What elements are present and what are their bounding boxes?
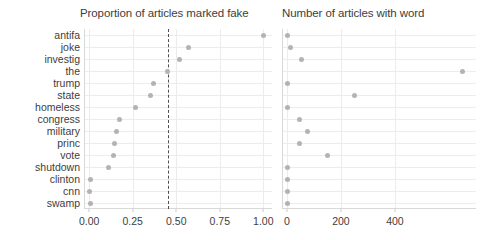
x-tick-label-0.00: 0.00 <box>79 216 99 227</box>
panel-count-title: Number of articles with word <box>282 7 424 19</box>
data-point-the <box>165 69 170 74</box>
data-point-trump <box>285 81 290 86</box>
gridline-row-joke <box>84 47 272 48</box>
gridline-row-the <box>282 71 476 72</box>
gridline-row-shutdown <box>282 167 476 168</box>
y-axis-spine <box>282 29 283 209</box>
gridline-row-swamp <box>282 203 476 204</box>
gridline-row-state <box>282 95 476 96</box>
data-point-swamp <box>88 201 93 206</box>
gridline-row-congress <box>282 119 476 120</box>
data-point-clinton <box>88 177 93 182</box>
gridline-row-shutdown <box>84 167 272 168</box>
data-point-shutdown <box>106 165 111 170</box>
gridline-row-vote <box>282 155 476 156</box>
data-point-cnn <box>87 189 92 194</box>
data-point-homeless <box>285 105 290 110</box>
gridline-row-congress <box>84 119 272 120</box>
x-tickmark-0.75 <box>219 209 220 212</box>
x-tickmark-0.50 <box>176 209 177 212</box>
gridline-row-state <box>84 95 272 96</box>
x-tickmark-0.00 <box>89 209 90 212</box>
gridline-row-swamp <box>84 203 272 204</box>
data-point-investig <box>299 57 304 62</box>
gridline-row-antifa <box>282 35 476 36</box>
data-point-vote <box>325 153 330 158</box>
gridline-row-military <box>282 131 476 132</box>
data-point-state <box>148 93 153 98</box>
data-point-antifa <box>285 33 290 38</box>
gridline-row-trump <box>84 83 272 84</box>
data-point-princ <box>297 141 302 146</box>
y-axis-spine <box>84 29 85 209</box>
data-point-military <box>305 129 310 134</box>
gridline-row-investig <box>282 59 476 60</box>
data-point-congress <box>117 117 122 122</box>
data-point-swamp <box>285 201 290 206</box>
panel-proportion: Proportion of articles marked fake 0.000… <box>0 0 276 240</box>
x-axis-ticks-count: 0200400 <box>282 209 476 229</box>
gridline-x-0.50 <box>176 29 177 209</box>
x-tick-label-1.00: 1.00 <box>253 216 273 227</box>
data-point-congress <box>297 117 302 122</box>
reference-line <box>168 29 169 209</box>
data-point-joke <box>288 45 293 50</box>
x-tickmark-1.00 <box>263 209 264 212</box>
gridline-row-antifa <box>84 35 272 36</box>
gridline-row-homeless <box>84 107 272 108</box>
gridline-row-trump <box>282 83 476 84</box>
x-tick-label-400: 400 <box>386 216 404 227</box>
data-point-military <box>114 129 119 134</box>
gridline-row-clinton <box>84 179 272 180</box>
panel-proportion-title: Proportion of articles marked fake <box>80 7 249 19</box>
data-point-state <box>352 93 357 98</box>
x-tick-label-0.50: 0.50 <box>166 216 186 227</box>
data-point-the <box>460 69 465 74</box>
data-point-clinton <box>285 177 290 182</box>
data-point-trump <box>151 81 156 86</box>
plot-area-count <box>282 29 476 209</box>
gridline-row-clinton <box>282 179 476 180</box>
x-tickmark-400 <box>394 209 395 212</box>
x-tick-label-200: 200 <box>332 216 350 227</box>
x-tickmark-0.25 <box>132 209 133 212</box>
plot-area-proportion <box>84 29 272 209</box>
data-point-vote <box>111 153 116 158</box>
gridline-x-0.25 <box>133 29 134 209</box>
gridline-row-homeless <box>282 107 476 108</box>
x-tick-label-0.25: 0.25 <box>123 216 143 227</box>
dot-plot-figure: antifajokeinvestigthetrumpstatehomelessc… <box>0 0 482 240</box>
data-point-homeless <box>133 105 138 110</box>
gridline-x-200 <box>341 29 342 209</box>
data-point-joke <box>186 45 191 50</box>
gridline-row-the <box>84 71 272 72</box>
gridline-row-joke <box>282 47 476 48</box>
gridline-row-cnn <box>282 191 476 192</box>
data-point-cnn <box>285 189 290 194</box>
gridline-x-0 <box>287 29 288 209</box>
gridline-x-0.75 <box>220 29 221 209</box>
gridline-x-0.00 <box>89 29 90 209</box>
x-tick-label-0.75: 0.75 <box>210 216 230 227</box>
data-point-investig <box>177 57 182 62</box>
gridline-row-princ <box>282 143 476 144</box>
gridline-x-400 <box>395 29 396 209</box>
data-point-antifa <box>261 33 266 38</box>
panel-count: Number of articles with word <box>276 0 482 240</box>
data-point-princ <box>112 141 117 146</box>
gridline-row-cnn <box>84 191 272 192</box>
x-tickmark-200 <box>340 209 341 212</box>
x-axis-ticks-proportion: 0.000.250.500.751.00 <box>84 209 272 229</box>
x-tickmark-0 <box>286 209 287 212</box>
gridline-x-1.00 <box>263 29 264 209</box>
data-point-shutdown <box>285 165 290 170</box>
x-tick-label-0: 0 <box>284 216 290 227</box>
gridline-row-military <box>84 131 272 132</box>
